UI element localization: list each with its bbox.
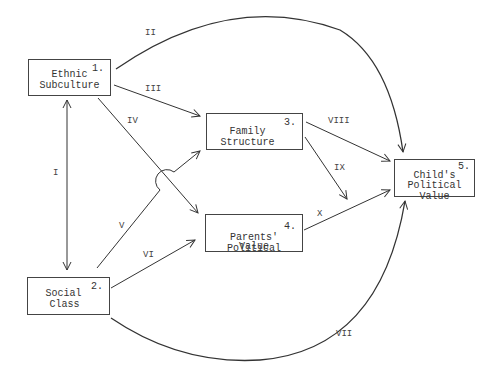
node-social-class: 2. Social Class	[27, 277, 110, 315]
node-family-structure: 3. Family Structure	[206, 113, 303, 150]
node-number: 4.	[284, 221, 296, 232]
path-label-V: V	[119, 221, 124, 231]
node-label-line2: Political Value	[395, 180, 474, 202]
node-label-line2: Value	[206, 241, 302, 252]
node-label-line1: Family	[193, 126, 302, 137]
path-label-X: X	[317, 209, 322, 219]
path-IV-arrow	[98, 98, 198, 213]
node-label-line1: Social	[18, 288, 109, 299]
node-ethnic-subculture: 1. Ethnic Subculture	[28, 59, 111, 96]
path-VIII-arrow	[306, 122, 390, 161]
path-label-VII: VII	[336, 329, 352, 339]
node-label-line1: Ethnic	[29, 69, 110, 80]
path-label-IX: IX	[334, 163, 345, 173]
path-label-VIII: VIII	[328, 116, 350, 126]
path-label-II: II	[145, 28, 156, 38]
node-label-line2: Structure	[193, 137, 302, 148]
node-childs-political-value: 5. Child's Political Value	[394, 159, 475, 197]
path-VI-arrow	[111, 240, 195, 288]
path-label-III: III	[145, 84, 161, 94]
node-label-line2: Class	[20, 299, 109, 310]
node-parents-political-value: 4. Parents' Political Value	[205, 214, 303, 252]
node-label-line2: Subculture	[29, 80, 110, 91]
path-label-I: I	[53, 168, 58, 178]
path-label-VI: VI	[143, 250, 154, 260]
path-label-IV: IV	[127, 116, 138, 126]
